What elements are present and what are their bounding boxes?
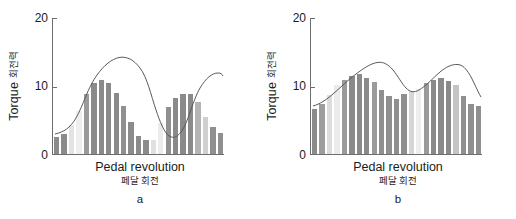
chart-panel-a: Torque 회전력 20 10 0 Pedal revolution 페달 회… — [0, 0, 258, 219]
bar — [453, 85, 458, 154]
y-tick-labels-b: 20 10 0 — [280, 0, 306, 219]
bar — [438, 78, 443, 154]
y-axis-label-a-text-ko: 회전력 — [8, 51, 19, 78]
bar — [334, 85, 339, 154]
bar — [394, 99, 399, 154]
y-tick-label-a-0: 0 — [24, 149, 48, 161]
bar — [342, 80, 347, 154]
x-axis-label-b: Pedal revolution 페달 회전 — [298, 161, 498, 186]
bar — [69, 125, 74, 154]
bar — [151, 140, 156, 154]
x-axis-label-b-text-ko: 페달 회전 — [298, 176, 498, 186]
bar — [218, 133, 223, 154]
bar — [319, 104, 324, 154]
y-axis-label-b: Torque 회전력 — [264, 0, 278, 16]
bar — [401, 94, 406, 154]
chart-panel-b: Torque 회전력 20 10 0 Pedal revolution 페달 회… — [258, 0, 516, 219]
bar-series-a — [53, 18, 224, 154]
bar — [121, 106, 126, 154]
bar — [349, 76, 354, 154]
bar — [143, 140, 148, 154]
plot-area-a — [52, 18, 224, 155]
bar — [431, 80, 436, 154]
bar — [158, 123, 163, 154]
x-axis-label-a-text-ko: 페달 회전 — [40, 176, 240, 186]
bar — [173, 98, 178, 154]
figure-container: Torque 회전력 20 10 0 Pedal revolution 페달 회… — [0, 0, 516, 219]
y-tick-label-b-20: 20 — [282, 12, 306, 24]
y-tick-mark-a-0 — [53, 154, 57, 155]
bar — [203, 117, 208, 154]
bar — [372, 82, 377, 154]
bar — [386, 96, 391, 154]
y-tick-label-b-0: 0 — [282, 149, 306, 161]
x-axis-line-b — [310, 154, 482, 155]
bar — [61, 134, 66, 154]
y-tick-mark-b-0 — [311, 154, 315, 155]
y-tick-label-a-10: 10 — [24, 80, 48, 92]
bar — [446, 81, 451, 154]
bar — [416, 89, 421, 154]
y-axis-label-b-text-ko: 회전력 — [266, 51, 277, 78]
bar — [409, 91, 414, 154]
bar — [76, 111, 81, 154]
y-tick-label-b-10: 10 — [282, 80, 306, 92]
bar — [476, 106, 481, 154]
bar — [54, 137, 59, 154]
y-tick-labels-a: 20 10 0 — [22, 0, 48, 219]
bar — [114, 93, 119, 154]
bar — [327, 95, 332, 154]
x-axis-line-a — [52, 154, 224, 155]
bar — [136, 136, 141, 154]
bar — [364, 78, 369, 154]
bar — [312, 109, 317, 154]
bar — [91, 83, 96, 154]
x-axis-label-b-text: Pedal revolution — [353, 160, 443, 174]
bar — [379, 90, 384, 154]
bar — [84, 94, 89, 154]
bar — [357, 74, 362, 154]
bar — [166, 107, 171, 154]
bar-series-b — [311, 18, 482, 154]
bar — [106, 83, 111, 154]
y-axis-label-a: Torque 회전력 — [6, 0, 20, 16]
y-axis-label-a-text: Torque — [7, 82, 21, 121]
x-axis-label-a-text: Pedal revolution — [95, 160, 185, 174]
bar — [180, 94, 185, 154]
bar — [424, 83, 429, 154]
panel-letter-b: b — [298, 193, 498, 205]
x-axis-label-a: Pedal revolution 페달 회전 — [40, 161, 240, 186]
plot-area-b — [310, 18, 482, 155]
panel-letter-a: a — [40, 193, 240, 205]
bar — [188, 94, 193, 154]
y-tick-label-a-20: 20 — [24, 12, 48, 24]
bar — [210, 127, 215, 154]
bar — [468, 104, 473, 154]
bar — [128, 122, 133, 154]
bar — [99, 80, 104, 154]
bar — [461, 96, 466, 154]
y-axis-label-b-text: Torque — [265, 82, 279, 121]
bar — [195, 102, 200, 154]
